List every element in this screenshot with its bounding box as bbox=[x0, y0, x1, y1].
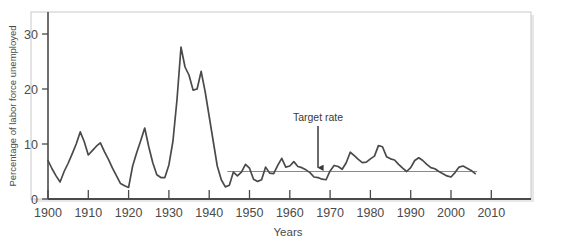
x-tick-label-1930: 1930 bbox=[155, 206, 183, 220]
x-tick-label-1920: 1920 bbox=[115, 206, 143, 220]
y-tick-label-10: 10 bbox=[24, 138, 38, 152]
x-axis-tick-labels: 1900 1910 1920 1930 1940 1950 1960 1970 … bbox=[34, 206, 505, 220]
x-tick-label-1970: 1970 bbox=[316, 206, 344, 220]
chart-canvas: 0 10 20 30 1900 1910 1920 1930 1940 bbox=[0, 0, 575, 244]
x-tick-label-1950: 1950 bbox=[236, 206, 264, 220]
x-axis-title: Years bbox=[274, 226, 303, 238]
x-tick-label-1990: 1990 bbox=[397, 206, 425, 220]
x-tick-label-1980: 1980 bbox=[356, 206, 384, 220]
y-tick-label-0: 0 bbox=[31, 193, 38, 207]
x-tick-label-1960: 1960 bbox=[276, 206, 304, 220]
x-tick-label-1910: 1910 bbox=[74, 206, 102, 220]
target-rate-annotation-label: Target rate bbox=[293, 111, 343, 123]
x-tick-label-1940: 1940 bbox=[195, 206, 223, 220]
y-tick-label-30: 30 bbox=[24, 28, 38, 42]
x-tick-label-2000: 2000 bbox=[437, 206, 465, 220]
y-axis-title: Percentage of labor force unemployed bbox=[7, 25, 18, 186]
x-tick-label-1900: 1900 bbox=[34, 206, 62, 220]
y-tick-label-20: 20 bbox=[24, 83, 38, 97]
x-tick-label-2010: 2010 bbox=[477, 206, 505, 220]
unemployment-rate-chart: 0 10 20 30 1900 1910 1920 1930 1940 bbox=[0, 0, 575, 244]
